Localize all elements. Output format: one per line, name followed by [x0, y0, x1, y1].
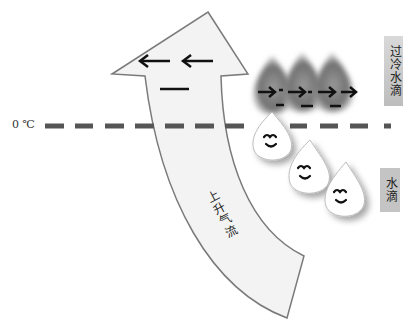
supercooled-droplets-label: 过冷水滴: [384, 36, 403, 106]
freezing-point-label: 0 ℃: [12, 118, 35, 131]
water-droplet-3: [325, 162, 365, 216]
diagram-canvas: [0, 0, 416, 332]
supercooled-droplets: [253, 52, 356, 114]
water-droplets-label: 水滴: [380, 168, 400, 212]
water-droplets: [253, 112, 365, 216]
updraft-arrow: [112, 12, 304, 318]
